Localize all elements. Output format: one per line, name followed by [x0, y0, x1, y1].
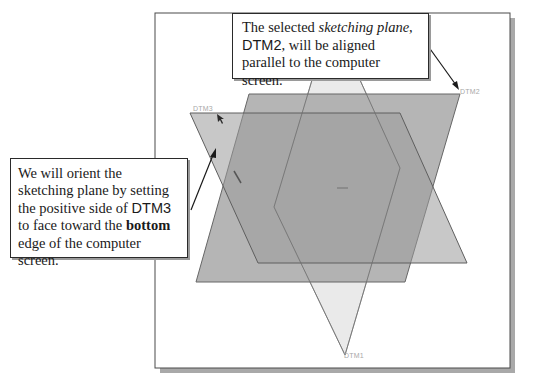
callout-datum-name: DTM2 — [242, 37, 281, 53]
callout-datum-name: DTM3 — [132, 200, 171, 216]
label-dtm1: DTM1 — [344, 352, 364, 359]
label-dtm2: DTM2 — [460, 88, 480, 95]
callout-text: The selected — [242, 19, 319, 35]
label-dtm3: DTM3 — [193, 105, 213, 112]
callout-text: , — [409, 19, 413, 35]
callout-orientation: We will orient the sketching plane by se… — [10, 158, 188, 258]
callout-emphasis: sketching plane — [319, 19, 410, 35]
callout-sketching-plane: The selected sketching plane,DTM2, will … — [232, 13, 429, 79]
callout-text: to face toward the — [18, 217, 126, 233]
callout-emphasis: bottom — [126, 217, 170, 233]
